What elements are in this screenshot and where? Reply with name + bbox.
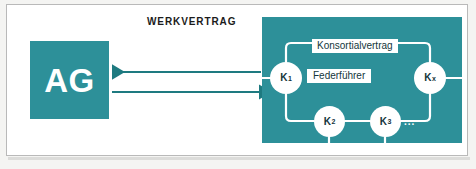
- node-k2: K2: [314, 106, 345, 137]
- node-k3-base: K: [380, 117, 387, 127]
- node-k1-base: K: [280, 73, 287, 83]
- node-k1-subscript: 1: [288, 75, 292, 82]
- node-k3-subscript: 3: [387, 118, 391, 125]
- diagram-canvas: WERKVERTRAG AG: [0, 0, 476, 169]
- ellipsis-label: ...: [404, 117, 415, 127]
- node-k2-base: K: [324, 117, 331, 127]
- node-kx-subscript: x: [432, 75, 436, 82]
- node-kx: Kx: [414, 62, 446, 94]
- node-kx-base: K: [424, 73, 431, 83]
- ag-label: AG: [44, 64, 95, 97]
- connector-left-down: [286, 94, 314, 121]
- consortium-panel: Konsortialvertrag Federführer K1 Kx K2 K…: [262, 17, 462, 143]
- federfuehrer-label: Federführer: [307, 69, 371, 83]
- page-shadow: [8, 157, 470, 160]
- node-k1: K1: [270, 62, 302, 94]
- node-k3: K3: [370, 106, 401, 137]
- werkvertrag-title: WERKVERTRAG: [147, 16, 236, 27]
- ag-box: AG: [30, 41, 109, 119]
- node-k2-subscript: 2: [331, 118, 335, 125]
- konsortialvertrag-label: Konsortialvertrag: [312, 39, 398, 53]
